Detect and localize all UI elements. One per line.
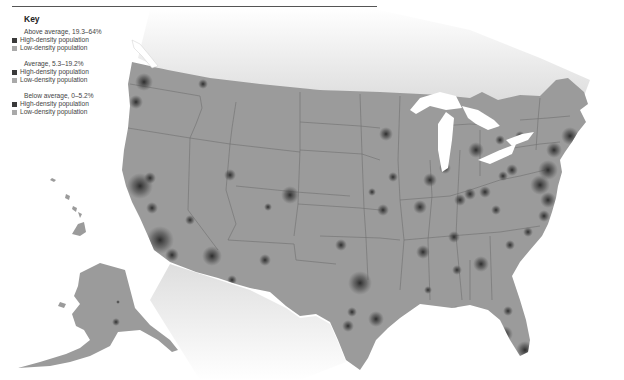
key-item-high-density: High-density population: [12, 36, 122, 44]
key-item-label: Low-density population: [20, 44, 87, 52]
key-item-label: Low-density population: [20, 108, 87, 116]
swatch-high-density: [12, 102, 17, 107]
swatch-low-density: [12, 46, 17, 51]
key-item-label: Low-density population: [20, 76, 87, 84]
key-group-average: Average, 5.3–19.2% High-density populati…: [12, 60, 122, 84]
key-item-high-density: High-density population: [12, 100, 122, 108]
key-item-low-density: Low-density population: [12, 76, 122, 84]
key-item-low-density: Low-density population: [12, 44, 122, 52]
key-item-label: High-density population: [20, 68, 89, 76]
key-group-label: Below average, 0–5.2%: [24, 92, 122, 100]
hawaii: [50, 178, 86, 236]
key-item-high-density: High-density population: [12, 68, 122, 76]
key-group-label: Above average, 19.3–64%: [24, 28, 122, 36]
key-item-low-density: Low-density population: [12, 108, 122, 116]
swatch-low-density: [12, 110, 17, 115]
swatch-high-density: [12, 38, 17, 43]
alaska: [18, 263, 178, 368]
swatch-low-density: [12, 78, 17, 83]
map-key: Key Above average, 19.3–64% High-density…: [12, 14, 122, 124]
key-title: Key: [24, 14, 122, 24]
swatch-high-density: [12, 70, 17, 75]
key-item-label: High-density population: [20, 100, 89, 108]
key-group-below-average: Below average, 0–5.2% High-density popul…: [12, 92, 122, 116]
key-item-label: High-density population: [20, 36, 89, 44]
key-group-above-average: Above average, 19.3–64% High-density pop…: [12, 28, 122, 52]
key-group-label: Average, 5.3–19.2%: [24, 60, 122, 68]
